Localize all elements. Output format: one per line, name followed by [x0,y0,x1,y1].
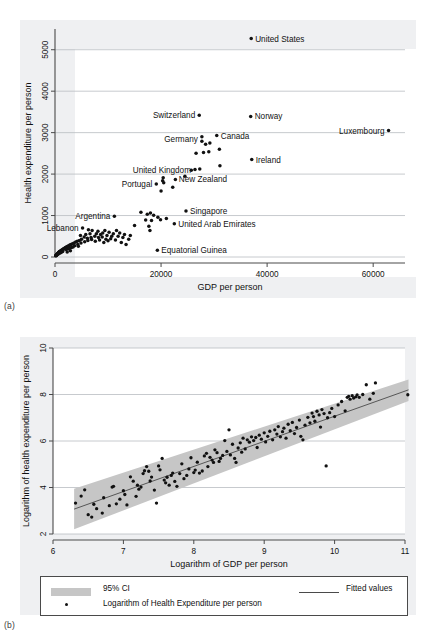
y-ticklabel-1: 4 [39,485,48,490]
data-point [279,435,282,438]
data-point [87,513,90,516]
data-point [200,140,204,144]
data-point [312,415,315,418]
data-point [198,167,202,171]
data-point [168,484,171,487]
data-point [282,427,285,430]
data-point [308,421,311,424]
data-point [365,383,368,386]
data-point [143,469,146,472]
data-point [120,241,124,245]
data-point [80,494,83,497]
data-point [326,416,329,419]
caption-b: (b) [4,620,15,630]
data-point [198,471,201,474]
annotation-12: United Arab Emirates [178,220,255,229]
x-axis-title: Logarithm of GDP per person [170,559,287,569]
annotation-7: United Kingdom [133,166,191,175]
data-point [156,215,160,219]
data-point [299,435,302,438]
data-point [83,488,86,491]
data-point [173,480,176,483]
data-point [348,398,351,401]
data-point [112,485,115,488]
data-point [241,437,244,440]
data-point [149,211,153,215]
data-point [204,142,208,146]
data-point [250,158,254,162]
data-point [306,416,309,419]
data-point [155,182,159,186]
data-point [372,392,375,395]
data-point [147,470,150,473]
data-point [275,432,278,435]
figure-root: 0100020003000400050000200004000060000GDP… [0,0,434,641]
data-point [368,398,371,401]
annotation-0: United States [255,35,304,44]
data-point [101,511,104,514]
y-ticklabel-4: 10 [39,343,48,353]
data-point [133,224,137,228]
data-point [286,423,289,426]
data-point [319,425,322,428]
data-point [301,438,304,441]
panel-b-overlay: 24681067891011Logarithm of GDP per perso… [20,337,416,615]
data-point [94,239,98,243]
data-point [86,239,90,243]
data-point [328,411,331,414]
data-point [303,424,306,427]
data-point [108,504,111,507]
data-point [178,472,181,475]
data-point [79,234,83,238]
annotation-2: Norway [255,112,284,121]
data-point [340,400,343,403]
data-point [203,454,206,457]
data-point [145,465,148,468]
data-point [102,496,105,499]
caption-a: (a) [4,301,15,311]
data-point [103,229,107,233]
data-point [114,238,118,242]
data-point [256,446,259,449]
data-point [149,479,152,482]
data-point [277,425,280,428]
data-point [215,451,218,454]
data-point [125,503,128,506]
data-point [208,456,211,459]
data-point [95,232,99,236]
data-point [90,229,94,233]
data-point [144,218,148,222]
x-ticklabel-2: 40000 [256,270,279,279]
data-point [229,453,232,456]
data-point [148,229,152,233]
data-point [325,464,328,467]
data-point [134,495,137,498]
annotation-1: Switzerland [153,111,196,120]
data-point [79,241,83,245]
panel-b-legend: 95% CI Fitted values Logarithm of Health… [40,576,408,616]
data-point [268,430,271,433]
x-ticklabel-0: 6 [51,547,56,556]
y-ticklabel-5: 5000 [41,40,50,59]
data-point [171,471,174,474]
data-point [129,475,132,478]
data-point [162,181,166,185]
data-point [212,461,215,464]
data-point [249,115,253,119]
data-point [336,403,339,406]
data-point [141,472,144,475]
annotation-13: Lebanon [47,224,79,233]
y-axis-title: Health expenditure per person [23,82,33,203]
data-point [200,135,204,139]
y-ticklabel-1: 1000 [41,206,50,225]
data-point [317,413,320,416]
data-point [164,481,167,484]
data-point [118,231,122,235]
x-ticklabel-0: 0 [53,270,58,279]
data-point [219,457,222,460]
data-point [157,464,160,467]
data-point [171,186,175,190]
data-point [374,381,377,384]
data-point [231,443,234,446]
data-point [333,415,336,418]
